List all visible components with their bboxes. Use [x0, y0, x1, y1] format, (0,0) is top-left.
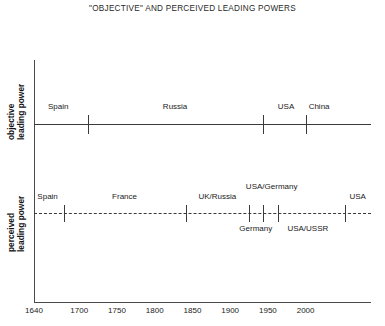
objective-segment-label-usa: USA [278, 102, 294, 111]
x-axis-tick-1850: 1850 [184, 306, 202, 315]
y-axis-label-perceived-line1: perceived [6, 196, 16, 252]
perceived-boundary-tick-0 [64, 205, 65, 222]
chart-title: "OBJECTIVE" AND PERCEIVED LEADING POWERS [0, 4, 385, 13]
perceived-segment-label-france: France [112, 192, 137, 201]
y-axis-label-perceived-line2: leading power [16, 196, 26, 252]
perceived-segment-label-line-0: USA/ [246, 182, 265, 191]
perceived-segment-label-uk-russia: UK/Russia [198, 192, 236, 201]
perceived-boundary-tick-3 [263, 205, 264, 222]
objective-boundary-tick-0 [88, 115, 89, 134]
perceived-boundary-tick-2 [249, 205, 250, 222]
y-axis-line [34, 60, 35, 303]
chart-root: "OBJECTIVE" AND PERCEIVED LEADING POWERS… [0, 0, 385, 326]
objective-boundary-tick-1 [263, 115, 264, 134]
objective-segment-label-spain: Spain [48, 102, 68, 111]
x-axis-tick-1750: 1750 [108, 306, 126, 315]
objective-boundary-tick-2 [306, 115, 307, 134]
perceived-segment-label-usa: USA [349, 192, 365, 201]
x-axis-tick-1900: 1900 [221, 306, 239, 315]
objective-segment-label-russia: Russia [163, 102, 187, 111]
x-axis-line [34, 302, 371, 303]
x-axis-tick-1640: 1640 [25, 306, 43, 315]
perceived-boundary-tick-4 [278, 205, 279, 222]
x-axis-tick-1950: 1950 [259, 306, 277, 315]
y-axis-label-objective-line2: leading power [16, 84, 26, 140]
perceived-boundary-tick-5 [345, 205, 346, 222]
perceived-timeline-line [34, 213, 371, 214]
perceived-segment-label-spain: Spain [37, 192, 57, 201]
perceived-boundary-tick-1 [186, 205, 187, 222]
perceived-segment-label-line-1: Germany [265, 182, 298, 191]
perceived-segment-label-usa-germany: USA/Germany [246, 182, 298, 191]
x-axis-tick-2000: 2000 [297, 306, 315, 315]
y-axis-label-perceived: perceived leading power [6, 196, 26, 252]
y-axis-label-objective: objective leading power [6, 84, 26, 140]
x-axis-tick-1800: 1800 [146, 306, 164, 315]
perceived-segment-label-usa-ussr: USA/USSR [287, 224, 328, 233]
objective-timeline-line [34, 124, 371, 125]
objective-segment-label-china: China [309, 102, 330, 111]
y-axis-label-objective-line1: objective [6, 84, 16, 140]
x-axis-tick-1700: 1700 [70, 306, 88, 315]
perceived-segment-label-germany: Germany [239, 224, 272, 233]
